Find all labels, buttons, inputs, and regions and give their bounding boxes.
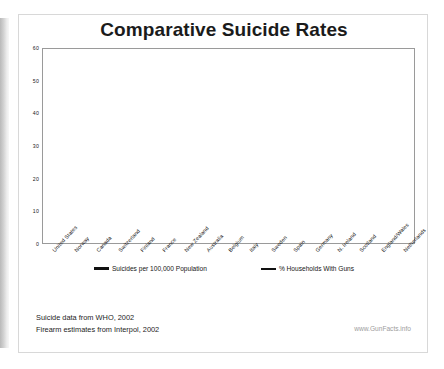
legend-label: % Households With Guns <box>279 265 354 272</box>
legend-item: Suicides per 100,000 Population <box>94 265 207 272</box>
y-axis-tick-label: 10 <box>33 208 39 214</box>
legend-swatch-icon <box>261 268 276 270</box>
legend-label: Suicides per 100,000 Population <box>112 265 207 272</box>
y-axis-tick-label: 0 <box>36 241 39 247</box>
site-watermark: www.GunFacts.info <box>354 325 411 332</box>
page-title: Comparative Suicide Rates <box>19 19 429 41</box>
plot-area: 0102030405060 United StatesNorwayCanadaS… <box>42 48 415 244</box>
y-axis-tick-label: 60 <box>33 45 39 51</box>
y-axis-tick-label: 30 <box>33 143 39 149</box>
source-line-2: Firearm estimates from Interpol, 2002 <box>36 324 159 336</box>
source-note: Suicide data from WHO, 2002 Firearm esti… <box>36 312 159 336</box>
chart-legend: Suicides per 100,000 Population% Househo… <box>19 265 429 272</box>
legend-item: % Households With Guns <box>261 265 354 272</box>
chart-card: Comparative Suicide Rates 0102030405060 … <box>18 14 428 353</box>
y-axis-tick-label: 50 <box>33 78 39 84</box>
scan-edge-artifact <box>0 18 9 348</box>
y-axis-tick-label: 40 <box>33 110 39 116</box>
legend-swatch-icon <box>94 267 109 270</box>
source-line-1: Suicide data from WHO, 2002 <box>36 312 159 324</box>
plot-frame <box>42 48 415 244</box>
y-axis-tick-label: 20 <box>33 176 39 182</box>
